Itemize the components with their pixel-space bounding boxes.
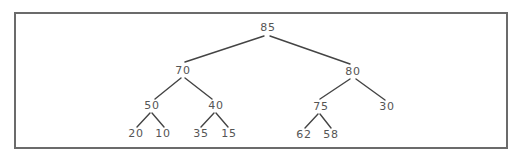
- tree-edge-50-20: [137, 113, 150, 127]
- tree-node-35: 35: [193, 127, 209, 140]
- tree-node-70: 70: [175, 64, 191, 77]
- tree-node-85: 85: [260, 21, 276, 34]
- tree-edge-70-40: [185, 78, 212, 99]
- tree-edge-70-50: [155, 78, 181, 99]
- tree-edge-85-70: [185, 36, 264, 62]
- tree-node-15: 15: [221, 127, 237, 140]
- tree-node-40: 40: [208, 99, 224, 112]
- tree-edge-75-62: [305, 114, 318, 128]
- tree-node-80: 80: [345, 65, 361, 78]
- tree-edge-85-80: [270, 36, 350, 64]
- tree-node-75: 75: [313, 100, 329, 113]
- tree-node-30: 30: [379, 100, 395, 113]
- tree-edge-50-10: [152, 113, 164, 127]
- tree-node-10: 10: [155, 127, 171, 140]
- tree-edge-75-58: [320, 114, 331, 128]
- tree-node-50: 50: [144, 99, 160, 112]
- tree-node-20: 20: [128, 127, 144, 140]
- tree-edge-40-15: [216, 113, 228, 127]
- tree-edges: [137, 36, 385, 128]
- tree-nodes: 85708050407530201035156258: [128, 21, 395, 141]
- heap-tree-diagram: 85708050407530201035156258: [0, 0, 526, 159]
- tree-edge-80-75: [320, 79, 350, 99]
- tree-edge-80-30: [356, 79, 385, 100]
- tree-node-58: 58: [323, 128, 339, 141]
- tree-edge-40-35: [201, 113, 214, 127]
- tree-node-62: 62: [296, 128, 312, 141]
